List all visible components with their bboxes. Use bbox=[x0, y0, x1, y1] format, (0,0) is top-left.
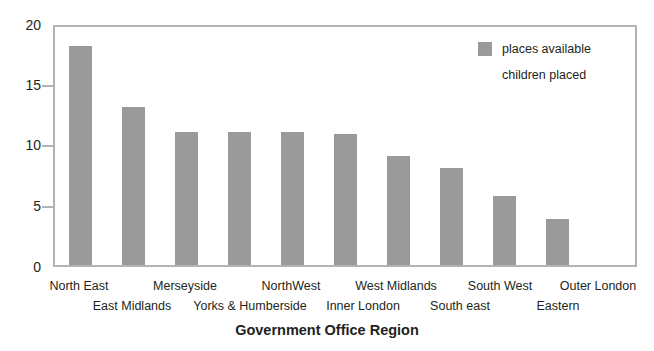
x-axis-labels: North East East Midlands Merseyside York… bbox=[0, 267, 654, 317]
y-tick-label-15: 15 bbox=[11, 78, 41, 92]
x-label-merseyside: Merseyside bbox=[153, 279, 217, 293]
x-label-eastern: Eastern bbox=[536, 299, 579, 313]
x-label-south-east: South east bbox=[430, 299, 490, 313]
y-tick-label-5: 5 bbox=[11, 199, 41, 213]
bar-south-west[interactable] bbox=[493, 196, 516, 265]
y-tick-label-20: 20 bbox=[11, 18, 41, 32]
legend: places available children placed bbox=[478, 36, 638, 88]
legend-swatch-icon-children-placed bbox=[478, 68, 492, 82]
bar-eastern[interactable] bbox=[546, 219, 569, 265]
x-label-inner-london: Inner London bbox=[326, 299, 400, 313]
y-tick-label-10: 10 bbox=[11, 138, 41, 152]
bar-west-midlands[interactable] bbox=[387, 156, 410, 265]
x-label-south-west: South West bbox=[468, 279, 532, 293]
bar-east-midlands[interactable] bbox=[122, 107, 145, 265]
x-axis-title: Government Office Region bbox=[0, 322, 654, 338]
legend-item-places-available[interactable]: places available bbox=[478, 36, 638, 62]
legend-swatch-icon-places-available bbox=[478, 42, 492, 56]
bar-northwest[interactable] bbox=[281, 132, 304, 265]
x-label-outer-london: Outer London bbox=[560, 279, 636, 293]
x-label-east-midlands: East Midlands bbox=[93, 299, 172, 313]
y-tick-mark-5 bbox=[42, 206, 53, 208]
legend-label-places-available: places available bbox=[502, 42, 591, 56]
x-label-northwest: NorthWest bbox=[262, 279, 321, 293]
x-label-west-midlands: West Midlands bbox=[355, 279, 437, 293]
x-label-north-east: North East bbox=[49, 279, 108, 293]
bar-south-east[interactable] bbox=[440, 168, 463, 265]
y-tick-mark-10 bbox=[42, 145, 53, 147]
legend-label-children-placed: children placed bbox=[502, 68, 586, 82]
bar-chart: 20 15 10 5 0 places available bbox=[0, 0, 654, 351]
bar-inner-london[interactable] bbox=[334, 134, 357, 265]
bar-north-east[interactable] bbox=[69, 46, 92, 265]
legend-item-children-placed[interactable]: children placed bbox=[478, 62, 638, 88]
y-tick-mark-15 bbox=[42, 85, 53, 87]
bar-merseyside[interactable] bbox=[175, 132, 198, 265]
bar-yorks-humberside[interactable] bbox=[228, 132, 251, 265]
x-label-yorks-humberside: Yorks & Humberside bbox=[193, 299, 306, 313]
